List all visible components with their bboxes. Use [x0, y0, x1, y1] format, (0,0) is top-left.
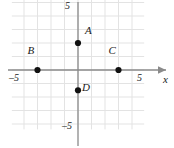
data-point-c	[115, 67, 121, 73]
data-point-a	[75, 40, 81, 46]
x-axis-label: x	[162, 73, 168, 85]
data-point-d	[75, 87, 81, 93]
data-point-b	[34, 67, 40, 73]
plot-canvas: ABCD–555–5x	[0, 0, 174, 148]
point-label-d: D	[81, 81, 90, 93]
x-tick-label-negative-5: –5	[8, 72, 19, 83]
y-tick-label-negative-5: –5	[61, 120, 72, 131]
x-tick-label-5: 5	[137, 72, 142, 83]
point-label-b: B	[28, 44, 35, 56]
coordinate-plane-figure: ABCD–555–5x	[0, 0, 174, 148]
point-label-a: A	[84, 24, 92, 36]
point-label-c: C	[109, 44, 117, 56]
y-tick-label-5: 5	[65, 0, 70, 11]
